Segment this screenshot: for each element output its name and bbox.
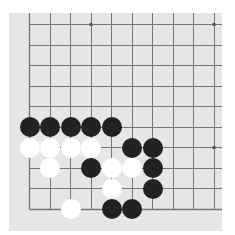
- star-point: [89, 23, 93, 27]
- black-stone: [61, 117, 81, 137]
- black-stone: [143, 179, 163, 199]
- white-stone: [102, 179, 122, 199]
- white-stone: [102, 158, 122, 178]
- black-stone: [102, 199, 122, 219]
- black-stone: [143, 138, 163, 158]
- black-stone: [122, 138, 142, 158]
- black-stone: [122, 199, 142, 219]
- black-stone: [81, 117, 101, 137]
- white-stone: [20, 138, 40, 158]
- white-stone: [61, 138, 81, 158]
- black-stone: [143, 158, 163, 178]
- white-stone: [61, 199, 81, 219]
- black-stone: [40, 117, 60, 137]
- black-stone: [81, 158, 101, 178]
- white-stone: [122, 158, 142, 178]
- white-stone: [40, 138, 60, 158]
- white-stone: [40, 158, 60, 178]
- white-stone: [81, 138, 101, 158]
- star-point: [212, 23, 216, 27]
- black-stone: [20, 117, 40, 137]
- go-board[interactable]: [9, 13, 222, 231]
- star-point: [212, 146, 216, 150]
- black-stone: [102, 117, 122, 137]
